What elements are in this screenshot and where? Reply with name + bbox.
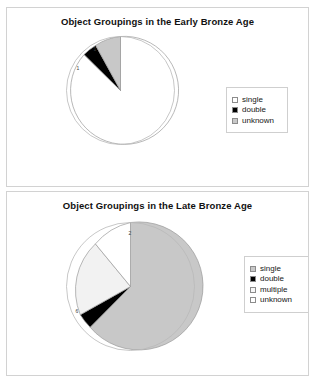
legend-item-multiple-late[interactable]: multiple (250, 286, 309, 294)
chart-panel-early-bronze-age: Object Groupings in the Early Bronze Age… (6, 7, 309, 187)
legend-swatch-single-early (232, 97, 238, 103)
legend-late: single double multiple unknown (244, 256, 309, 313)
legend-swatch-double-late (250, 276, 256, 282)
data-label-double-early: 1 (77, 66, 80, 71)
legend-label-unknown-early: unknown (242, 117, 274, 125)
legend-item-double-late[interactable]: double (250, 275, 309, 283)
plot-area-late: 2 6 14 single double multiple unknown (7, 211, 308, 370)
legend-item-single-late[interactable]: single (250, 265, 309, 273)
pie-svg-late (63, 219, 198, 354)
pie-svg-early (63, 33, 178, 148)
legend-item-unknown-early[interactable]: unknown (232, 117, 281, 125)
cut-text-left: ... (18, 0, 23, 1)
legend-swatch-double-early (232, 107, 238, 113)
cut-text-right: - (252, 0, 254, 1)
legend-swatch-multiple-late (250, 287, 256, 293)
legend-label-double-early: double (242, 106, 266, 114)
chart-title-early: Object Groupings in the Early Bronze Age (7, 8, 308, 27)
legend-label-multiple-late: multiple (260, 286, 288, 294)
legend-swatch-unknown-late (250, 297, 256, 303)
page-top-cut-sliver: ... - - (0, 0, 315, 7)
chart-panel-late-bronze-age: Object Groupings in the Late Bronze Age … (6, 191, 309, 376)
legend-item-single-early[interactable]: single (232, 96, 281, 104)
legend-label-single-early: single (242, 96, 263, 104)
legend-swatch-unknown-early (232, 118, 238, 124)
legend-label-unknown-late: unknown (260, 296, 292, 304)
chart-title-late: Object Groupings in the Late Bronze Age (7, 192, 308, 211)
legend-early: single double unknown (226, 87, 288, 133)
legend-swatch-single-late (250, 266, 256, 272)
legend-label-double-late: double (260, 275, 284, 283)
data-label-unknown-late: 2 (129, 231, 132, 236)
pie-chart-early (63, 33, 178, 148)
data-label-unknown-early: 1 (94, 47, 97, 52)
pie-chart-late (63, 219, 198, 354)
legend-item-double-early[interactable]: double (232, 106, 281, 114)
data-label-multiple-late: 6 (76, 309, 79, 314)
legend-item-unknown-late[interactable]: unknown (250, 296, 309, 304)
plot-area-early: 1 1 15 single double unknown (7, 27, 308, 181)
legend-label-single-late: single (260, 265, 281, 273)
cut-text-mid: - (205, 0, 207, 1)
